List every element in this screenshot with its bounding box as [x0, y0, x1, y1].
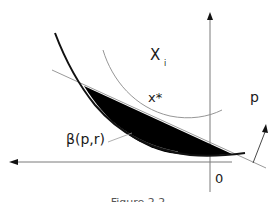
point-label-xstar: x* [148, 91, 162, 104]
figure-caption: Figure 2.2 [0, 196, 276, 202]
origin-label: 0 [215, 172, 223, 185]
region-label-beta: β(p,r) [66, 132, 105, 146]
set-label-subscript: i [164, 60, 166, 68]
vector-p [253, 124, 268, 163]
vector-p-arrow-icon [262, 124, 268, 133]
set-label-X: X [150, 48, 160, 63]
axis-arrow-up-icon [207, 12, 213, 20]
beta-leader-line [108, 133, 132, 142]
horizontal-axis [9, 159, 232, 165]
vector-label-p: p [250, 90, 259, 104]
axis-arrow-left-icon [9, 159, 18, 165]
diagram-canvas [0, 0, 276, 202]
vertical-axis [207, 12, 213, 192]
